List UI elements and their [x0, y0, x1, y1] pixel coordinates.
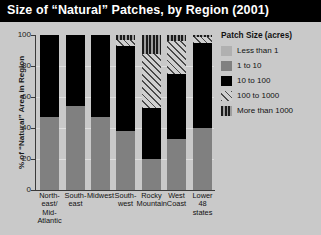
legend-item-less-than-1[interactable]: Less than 1: [221, 44, 319, 57]
legend-item-label: 100 to 1000: [237, 91, 279, 100]
bar-segment-2: [142, 108, 161, 159]
bar-segment-2: [167, 74, 186, 139]
legend-title: Patch Size (acres): [221, 30, 319, 40]
bar-segment-2: [40, 35, 59, 117]
bar-segment-1: [66, 106, 85, 190]
bar-segment-4: [116, 35, 135, 40]
bar-group: [36, 35, 214, 190]
legend-item-label: 1 to 10: [237, 61, 261, 70]
bar-segment-2: [116, 46, 135, 131]
bar-segment-3: [167, 41, 186, 74]
y-tick-label: 0: [5, 186, 31, 194]
y-tick-label: 80: [5, 62, 31, 70]
bar-segment-3: [193, 37, 212, 43]
y-axis-labels: 100 80 60 40 20 0: [0, 0, 31, 235]
title-bar: Size of “Natural” Patches, by Region (20…: [0, 0, 321, 22]
bar-segment-1: [91, 117, 110, 190]
legend-item-label: 10 to 100: [237, 76, 270, 85]
bar-segment-1: [40, 117, 59, 190]
bar-segment-3: [142, 54, 161, 108]
legend-swatch-icon: [221, 106, 232, 116]
legend: Patch Size (acres) Less than 1 1 to 10 1…: [221, 30, 319, 119]
bar-segment-1: [142, 159, 161, 190]
bar-segment-3: [116, 40, 135, 46]
bar-segment-2: [193, 43, 212, 128]
x-axis-labels: North-east/Mid-AtlanticSouth-eastMidwest…: [36, 192, 216, 235]
legend-swatch-icon: [221, 46, 232, 56]
y-tick-label: 100: [5, 31, 31, 39]
legend-item-10-to-100[interactable]: 10 to 100: [221, 74, 319, 87]
bar-segment-1: [167, 139, 186, 190]
bar-segment-1: [116, 131, 135, 190]
legend-swatch-icon: [221, 91, 232, 101]
bar-segment-4: [167, 35, 186, 41]
legend-swatch-icon: [221, 61, 232, 71]
bar-segment-1: [193, 128, 212, 190]
y-tick-label: 40: [5, 124, 31, 132]
legend-item-100-to-1000[interactable]: 100 to 1000: [221, 89, 319, 102]
bar-segment-2: [91, 35, 110, 117]
legend-item-label: Less than 1: [237, 46, 278, 55]
legend-swatch-icon: [221, 76, 232, 86]
bar-segment-4: [193, 35, 212, 37]
plot-area: [36, 35, 214, 190]
bar-segment-2: [66, 35, 85, 106]
x-axis-label-6: Lower48states: [188, 192, 218, 217]
legend-item-label: More than 1000: [237, 106, 293, 115]
chart-screenshot: Size of “Natural” Patches, by Region (20…: [0, 0, 321, 235]
y-tick-label: 60: [5, 93, 31, 101]
legend-item-1-to-10[interactable]: 1 to 10: [221, 59, 319, 72]
y-tick-label: 20: [5, 155, 31, 163]
page-title: Size of “Natural” Patches, by Region (20…: [7, 3, 269, 17]
legend-item-more-than-1000[interactable]: More than 1000: [221, 104, 319, 117]
bar-segment-4: [142, 35, 161, 54]
